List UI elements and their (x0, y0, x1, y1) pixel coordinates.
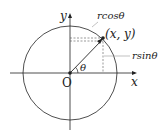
origin-point (68, 71, 72, 75)
point-label: (x, y) (105, 27, 136, 41)
rsin-label: rsinθ (132, 50, 158, 61)
y-axis-arrow-icon (68, 13, 72, 18)
y-axis-label: y (59, 9, 67, 23)
leader-rcos (92, 22, 98, 27)
polar-diagram: y x O θ (x, y) rcosθ rsinθ (0, 0, 168, 135)
angle-arc (76, 67, 78, 73)
x-axis-label: x (131, 75, 138, 89)
rcos-label: rcosθ (97, 10, 125, 21)
origin-label: O (62, 76, 72, 90)
angle-label: θ (80, 62, 86, 73)
